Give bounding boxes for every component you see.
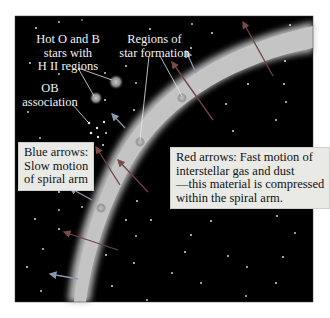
hii-region-glow-1 xyxy=(108,74,124,90)
legend-line: within the spiral arm. xyxy=(176,192,324,206)
label-line: Regions of xyxy=(112,33,197,47)
hii-region-glow-2 xyxy=(89,91,103,105)
blue-arrows-legend-box: Blue arrows: Slow motion of spiral arm xyxy=(18,142,94,191)
label-star-formation: Regions of star formation xyxy=(112,33,197,60)
star-formation-glow-2 xyxy=(177,93,187,103)
label-line: star formation xyxy=(112,47,197,61)
red-arrows-legend-box: Red arrows: Fast motion of interstellar … xyxy=(170,147,330,209)
label-line: H II regions xyxy=(33,60,103,74)
label-ob-association: OB association xyxy=(20,82,80,109)
legend-line: —this material is compressed xyxy=(176,178,324,192)
label-line: Hot O and B xyxy=(33,33,103,47)
legend-line: Red arrows: Fast motion of xyxy=(176,151,324,165)
label-line: OB xyxy=(20,82,80,96)
label-hot-ob-stars: Hot O and B stars with H II regions xyxy=(33,33,103,74)
legend-line: Blue arrows: xyxy=(24,146,88,160)
label-line: stars with xyxy=(33,47,103,61)
legend-line: Slow motion xyxy=(24,160,88,174)
legend-line: of spiral arm xyxy=(24,173,88,187)
star-formation-glow-3 xyxy=(96,203,106,213)
legend-line: interstellar gas and dust xyxy=(176,165,324,179)
label-line: association xyxy=(20,96,80,110)
